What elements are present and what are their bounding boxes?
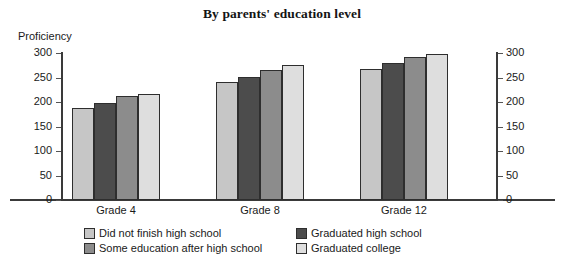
legend-entry: Graduated college	[296, 241, 504, 256]
legend-label: Graduated college	[311, 242, 401, 255]
legend-entry: Did not finish high school	[84, 226, 296, 241]
y-tick-label-right: 150	[506, 121, 538, 132]
x-axis-category-label: Grade 4	[56, 204, 176, 216]
y-tick-right	[498, 78, 503, 79]
bar	[260, 70, 282, 200]
y-tick-right	[498, 176, 503, 177]
y-tick-right	[498, 200, 503, 201]
bar	[72, 108, 94, 200]
y-tick-left	[56, 200, 61, 201]
legend-swatch-icon	[84, 228, 95, 239]
legend-entry: Some education after high school	[84, 241, 296, 256]
plot-area	[62, 53, 496, 200]
y-tick-right	[498, 53, 503, 54]
y-tick-right	[498, 151, 503, 152]
bar	[404, 57, 426, 200]
legend-swatch-icon	[84, 243, 95, 254]
bar	[216, 82, 238, 200]
bar	[382, 63, 404, 200]
legend-swatch-icon	[296, 228, 307, 239]
bar	[138, 94, 160, 200]
bar	[116, 96, 138, 200]
y-tick-left	[56, 78, 61, 79]
bar	[282, 65, 304, 200]
chart-legend: Did not finish high schoolGraduated high…	[84, 226, 504, 256]
y-tick-label-left: 300	[20, 47, 52, 58]
y-tick-left	[56, 53, 61, 54]
y-tick-label-right: 250	[506, 72, 538, 83]
y-tick-label-left: 0	[20, 194, 52, 205]
y-tick-left	[56, 151, 61, 152]
y-tick-label-left: 200	[20, 96, 52, 107]
legend-entry: Graduated high school	[296, 226, 504, 241]
x-axis-category-label: Grade 12	[344, 204, 464, 216]
bar	[426, 54, 448, 200]
y-tick-label-left: 100	[20, 145, 52, 156]
bar	[360, 69, 382, 200]
y-tick-label-left: 250	[20, 72, 52, 83]
y-axis-label: Proficiency	[18, 30, 72, 42]
x-axis-category-label: Grade 8	[200, 204, 320, 216]
y-tick-label-right: 100	[506, 145, 538, 156]
y-tick-label-right: 50	[506, 170, 538, 181]
y-tick-left	[56, 102, 61, 103]
y-tick-right	[498, 127, 503, 128]
y-tick-label-left: 50	[20, 170, 52, 181]
y-tick-label-right: 200	[506, 96, 538, 107]
legend-label: Some education after high school	[99, 242, 262, 255]
bar	[94, 103, 116, 201]
y-tick-right	[498, 102, 503, 103]
legend-swatch-icon	[296, 243, 307, 254]
y-tick-left	[56, 176, 61, 177]
y-tick-label-right: 300	[506, 47, 538, 58]
legend-label: Graduated high school	[311, 227, 422, 240]
y-tick-label-left: 150	[20, 121, 52, 132]
y-tick-label-right: 0	[506, 194, 538, 205]
legend-label: Did not finish high school	[99, 227, 221, 240]
bar	[238, 77, 260, 200]
chart-title: By parents' education level	[0, 6, 564, 22]
y-tick-left	[56, 127, 61, 128]
